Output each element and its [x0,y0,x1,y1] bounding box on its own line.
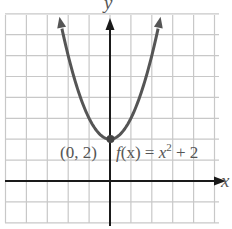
vertex-label: (0, 2) [60,143,97,162]
function-label-eq: = [141,143,159,162]
vertex-point [107,135,115,143]
grid [5,14,219,223]
function-label-arg: (x) [121,143,141,162]
function-graph: x y (0, 2) f(x) = x2 + 2 [0,0,232,229]
x-axis-label: x [220,170,230,191]
y-axis-arrow-icon [106,18,115,30]
curve-arrow-icon [57,17,66,29]
curve-arrow-icon [154,17,163,29]
y-axis-label: y [102,0,113,13]
function-label-rest: + 2 [172,143,199,162]
axes: x y [5,0,230,226]
function-label: f(x) = x2 + 2 [116,141,198,162]
